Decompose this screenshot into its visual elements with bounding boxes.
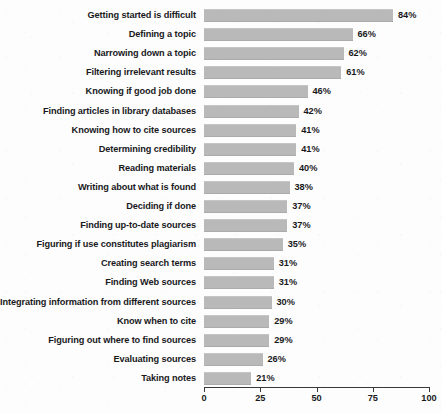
- x-axis-tick-label: 0: [201, 393, 206, 403]
- bar-value-label: 84%: [398, 6, 416, 25]
- bar-track: 61%: [204, 63, 429, 82]
- category-label: Figuring out where to find sources: [0, 331, 196, 350]
- bar: [204, 238, 283, 251]
- category-label: Determining credibility: [0, 140, 196, 159]
- category-label: Writing about what is found: [0, 178, 196, 197]
- x-axis-tick: [373, 387, 374, 392]
- bar-value-label: 29%: [274, 331, 292, 350]
- category-label: Know when to cite: [0, 312, 196, 331]
- bar-value-label: 38%: [295, 178, 313, 197]
- category-label: Reading materials: [0, 159, 196, 178]
- category-label: Defining a topic: [0, 25, 196, 44]
- bar-track: 66%: [204, 25, 429, 44]
- category-label: Knowing how to cite sources: [0, 121, 196, 140]
- bar: [204, 9, 393, 22]
- bar: [204, 85, 308, 98]
- bar-value-label: 29%: [274, 312, 292, 331]
- bar-value-label: 41%: [301, 121, 319, 140]
- category-label: Narrowing down a topic: [0, 44, 196, 63]
- bar-value-label: 62%: [349, 44, 367, 63]
- bar: [204, 47, 344, 60]
- bar-track: 29%: [204, 331, 429, 350]
- chart-bar-row: Figuring out where to find sources29%: [0, 331, 442, 350]
- bar: [204, 334, 269, 347]
- bar-track: 41%: [204, 140, 429, 159]
- bar-value-label: 41%: [301, 140, 319, 159]
- x-axis-tick-label: 25: [255, 393, 265, 403]
- bar-value-label: 35%: [288, 235, 306, 254]
- bar: [204, 372, 251, 385]
- bar-track: 26%: [204, 350, 429, 369]
- bar: [204, 219, 287, 232]
- category-label: Knowing if good job done: [0, 82, 196, 101]
- chart-bar-row: Filtering irrelevant results61%: [0, 63, 442, 82]
- x-axis-tick: [429, 387, 430, 392]
- bar: [204, 181, 290, 194]
- bar: [204, 200, 287, 213]
- bar-track: 21%: [204, 369, 429, 388]
- category-label: Integrating information from different s…: [0, 293, 196, 312]
- x-axis-tick: [317, 387, 318, 392]
- chart-bar-row: Defining a topic66%: [0, 25, 442, 44]
- bar-track: 42%: [204, 102, 429, 121]
- chart-plot-area: Getting started is difficult84%Defining …: [0, 0, 442, 413]
- bar-value-label: 40%: [299, 159, 317, 178]
- chart-bar-row: Finding articles in library databases42%: [0, 102, 442, 121]
- bar-track: 30%: [204, 293, 429, 312]
- bar-track: 37%: [204, 216, 429, 235]
- bar-value-label: 31%: [279, 273, 297, 292]
- chart-bar-row: Integrating information from different s…: [0, 293, 442, 312]
- chart-bar-row: Figuring if use constitutes plagiarism35…: [0, 235, 442, 254]
- x-axis-tick-label: 50: [311, 393, 321, 403]
- category-label: Deciding if done: [0, 197, 196, 216]
- chart-bar-row: Getting started is difficult84%: [0, 6, 442, 25]
- chart-bar-row: Knowing if good job done46%: [0, 82, 442, 101]
- chart-bar-row: Determining credibility41%: [0, 140, 442, 159]
- chart-bar-row: Finding up-to-date sources37%: [0, 216, 442, 235]
- chart-bar-row: Evaluating sources26%: [0, 350, 442, 369]
- bar-track: 46%: [204, 82, 429, 101]
- bar-value-label: 37%: [292, 197, 310, 216]
- bar: [204, 162, 294, 175]
- chart-bar-row: Creating search terms31%: [0, 254, 442, 273]
- chart-bar-row: Writing about what is found38%: [0, 178, 442, 197]
- category-label: Creating search terms: [0, 254, 196, 273]
- chart-bar-row: Finding Web sources31%: [0, 273, 442, 292]
- category-label: Getting started is difficult: [0, 6, 196, 25]
- bar-value-label: 37%: [292, 216, 310, 235]
- x-axis-tick: [260, 387, 261, 392]
- category-label: Finding articles in library databases: [0, 102, 196, 121]
- chart-bar-row: Taking notes21%: [0, 369, 442, 388]
- bar-track: 40%: [204, 159, 429, 178]
- x-axis-tick-label: 100: [421, 393, 436, 403]
- bar: [204, 296, 272, 309]
- category-label: Figuring if use constitutes plagiarism: [0, 235, 196, 254]
- bar-value-label: 66%: [358, 25, 376, 44]
- chart-bar-row: Reading materials40%: [0, 159, 442, 178]
- bar-value-label: 42%: [304, 102, 322, 121]
- bar-value-label: 31%: [279, 254, 297, 273]
- category-label: Evaluating sources: [0, 350, 196, 369]
- bar-track: 84%: [204, 6, 429, 25]
- category-label: Finding Web sources: [0, 273, 196, 292]
- bar-value-label: 46%: [313, 82, 331, 101]
- chart-bar-row: Knowing how to cite sources41%: [0, 121, 442, 140]
- bar-track: 31%: [204, 273, 429, 292]
- bar-value-label: 21%: [256, 369, 274, 388]
- bar-track: 35%: [204, 235, 429, 254]
- category-label: Finding up-to-date sources: [0, 216, 196, 235]
- bar: [204, 28, 353, 41]
- bar: [204, 353, 263, 366]
- bar-value-label: 61%: [346, 63, 364, 82]
- bar: [204, 124, 296, 137]
- x-axis-tick: [204, 387, 205, 392]
- bar: [204, 276, 274, 289]
- x-axis-tick-label: 75: [368, 393, 378, 403]
- bar: [204, 105, 299, 118]
- bar: [204, 257, 274, 270]
- bar: [204, 143, 296, 156]
- chart-bar-row: Narrowing down a topic62%: [0, 44, 442, 63]
- chart-bar-row: Deciding if done37%: [0, 197, 442, 216]
- bar-track: 31%: [204, 254, 429, 273]
- bar-track: 37%: [204, 197, 429, 216]
